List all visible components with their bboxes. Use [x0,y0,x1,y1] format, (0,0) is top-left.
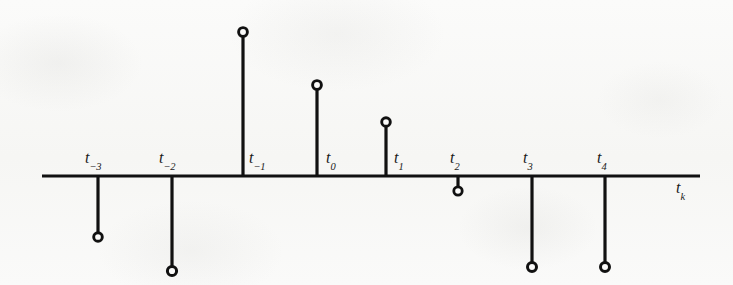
stem-t-minus-1 [239,28,248,176]
stem-marker-circle [239,28,248,37]
stem-marker-circle [382,118,391,127]
stem-marker-circle [313,81,322,90]
tick-label-t-minus-3: t−3 [85,150,101,166]
stem-marker-circle [94,233,103,242]
tick-label-t-3: t3 [523,150,533,166]
tick-label-t-minus-1: t−1 [249,150,265,166]
stem-t-minus-3 [94,176,103,241]
stem-t-minus-2 [167,176,176,276]
stem-marker-circle [167,266,176,275]
stem-plot-canvas [0,0,733,285]
stem-t-4 [601,176,610,272]
stem-t-3 [528,176,537,272]
tick-label-t-minus-2: t−2 [159,150,175,166]
tick-label-t-0: t0 [326,150,336,166]
stem-t-0 [313,81,322,176]
stem-t-1 [382,118,391,176]
stem-plot-figure: t−3 t−2 t−1 t0 t1 t2 t3 t4 tk [0,0,733,285]
stem-t-2 [454,176,462,195]
stem-marker-circle [601,263,610,272]
tick-label-t-2: t2 [450,150,460,166]
tick-label-t-1: t1 [394,150,404,166]
axis-variable-label: tk [676,180,685,196]
stem-marker-circle [454,187,462,195]
stem-marker-circle [528,263,537,272]
tick-label-t-4: t4 [597,150,607,166]
